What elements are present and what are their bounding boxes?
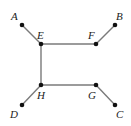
graph-diagram: ABCDEFGH <box>0 0 131 126</box>
node-label-f: F <box>87 29 95 41</box>
node-label-h: H <box>36 89 46 101</box>
node-f <box>94 42 99 47</box>
node-c <box>113 103 118 108</box>
node-e <box>39 42 44 47</box>
node-g <box>94 83 99 88</box>
node-h <box>39 83 44 88</box>
labels: ABCDEFGH <box>9 10 124 120</box>
edge-g-c <box>96 85 115 105</box>
node-label-a: A <box>10 10 18 22</box>
node-label-c: C <box>116 108 124 120</box>
nodes <box>20 23 118 108</box>
edge-f-b <box>96 25 115 44</box>
node-a <box>20 23 25 28</box>
node-label-d: D <box>9 108 18 120</box>
node-d <box>20 103 25 108</box>
node-label-g: G <box>88 89 96 101</box>
node-label-e: E <box>36 29 44 41</box>
node-label-b: B <box>116 10 123 22</box>
edges <box>22 25 115 105</box>
node-b <box>113 23 118 28</box>
